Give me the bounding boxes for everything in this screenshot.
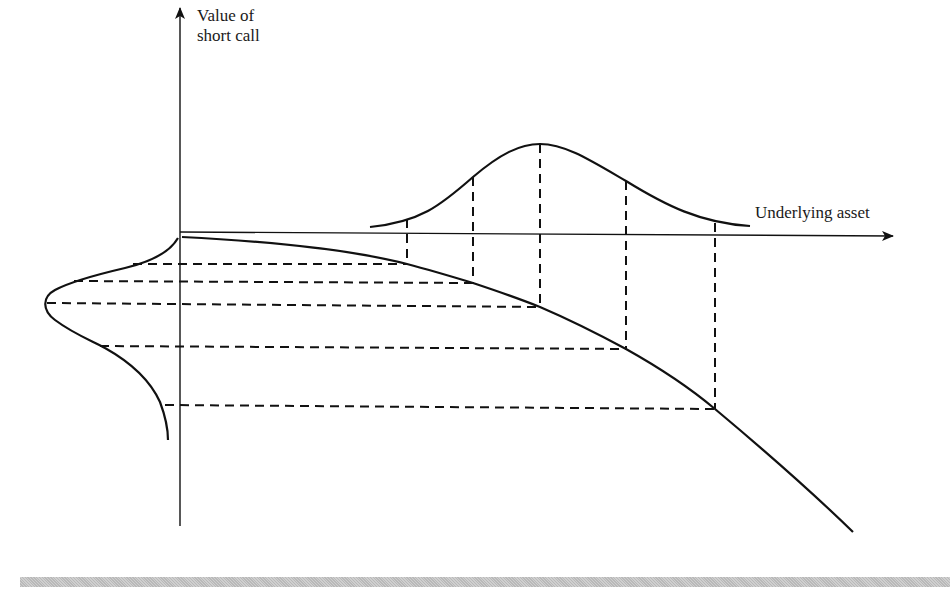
- projection-horizontal-4: [100, 346, 626, 349]
- projection-horizontal-2: [74, 281, 473, 283]
- horizontal-projection-lines: [47, 264, 715, 409]
- x-axis: [180, 232, 893, 236]
- underlying-distribution-curve: [370, 144, 750, 227]
- short-call-value-curve: [182, 237, 853, 532]
- footer-divider-bar: [20, 577, 950, 587]
- y-axis-label-line-1: Value of: [197, 6, 307, 26]
- x-axis-label: Underlying asset: [755, 203, 870, 223]
- y-axis-label-line-2: short call: [197, 26, 307, 46]
- projection-horizontal-5: [165, 405, 715, 409]
- y-axis-label: Value of short call: [197, 6, 307, 46]
- projection-horizontal-3: [47, 303, 540, 307]
- diagram-canvas: [0, 0, 950, 595]
- value-distribution-curve: [45, 238, 178, 440]
